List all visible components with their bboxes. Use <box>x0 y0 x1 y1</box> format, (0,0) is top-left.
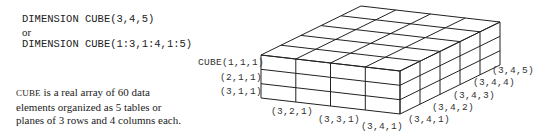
label-plane-5: (3,4,5) <box>492 65 534 76</box>
label-row-1: CUBE(1,1,1) <box>198 57 264 68</box>
label-column-2: (3,2,1) <box>271 106 313 117</box>
label-plane-3: (3,4,3) <box>453 90 495 101</box>
cube-array-diagram <box>0 0 551 138</box>
label-plane-1: (3,4,1) <box>408 114 450 125</box>
label-row-2: (2,1,1) <box>220 72 262 83</box>
label-row-3: (3,1,1) <box>220 86 262 97</box>
label-plane-2: (3,4,2) <box>432 102 474 113</box>
label-column-3: (3,3,1) <box>318 114 360 125</box>
label-column-4: (3,4,1) <box>361 121 403 132</box>
label-plane-4: (3,4,4) <box>473 77 515 88</box>
